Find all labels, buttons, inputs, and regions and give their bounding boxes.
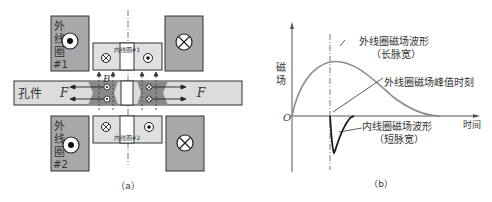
inner-coil-waveform: [330, 116, 354, 153]
outer-coil-waveform: [292, 61, 440, 116]
field-label: B: [102, 73, 110, 84]
force-label-right: F: [196, 86, 206, 100]
peak-time-label: 外线圈磁场峰值时刻: [384, 76, 474, 88]
inner-wave-label-1: 内线圈磁场波形: [362, 120, 432, 132]
outer-wave-label-2: （长脉宽）: [371, 48, 421, 60]
current-out-icon: [62, 33, 78, 49]
x-axis-label: 时间: [463, 119, 481, 130]
caption-a: （a）: [116, 181, 140, 191]
force-label-left: F: [59, 86, 69, 100]
y-axis-label-0: 磁: [276, 61, 286, 73]
y-axis-arrow-icon: [290, 22, 294, 29]
outer-coil-1-label-0: 外: [54, 20, 65, 33]
current-out-icon: [144, 54, 153, 63]
outer-coil-2-label-3: #2: [53, 159, 68, 170]
current-in-icon: [177, 135, 193, 151]
current-in-icon: [102, 123, 111, 132]
current-out-icon: [145, 123, 154, 132]
outer-wave-label-1: 外线圈磁场波形: [359, 35, 429, 47]
peak-time-leader: [333, 78, 383, 112]
inner-coil-1-label: 内线圈#1: [114, 46, 141, 54]
y-axis-label-1: 场: [276, 74, 286, 86]
origin-label: O: [283, 112, 291, 123]
panel-b: 外线圈磁场波形 （长脉宽） 外线圈磁场峰值时刻 内线圈磁场波形 （短脉宽） 磁 …: [276, 22, 481, 189]
current-in-icon: [102, 54, 111, 63]
diagram-canvas: 外 线 圈 #1 内线圈#1 孔件: [0, 0, 492, 202]
workpiece-hole: [121, 81, 133, 105]
panel-a: 外 线 圈 #1 内线圈#1 孔件: [14, 10, 242, 191]
current-out-icon: [63, 137, 79, 153]
current-in-icon: [176, 34, 192, 50]
x-axis-arrow-icon: [473, 114, 480, 118]
caption-b: （b）: [369, 179, 393, 189]
outer-wave-leader: [340, 40, 345, 46]
inner-coil-2-label: 内线圈#2: [114, 134, 141, 142]
workpiece-label: 孔件: [18, 87, 42, 101]
inner-wave-label-2: （短脉宽）: [374, 133, 424, 145]
outer-coil-1-label-2: 圈: [54, 46, 65, 59]
outer-coil-1-label-3: #1: [53, 59, 68, 70]
outer-coil-2-label-0: 外: [54, 120, 65, 133]
